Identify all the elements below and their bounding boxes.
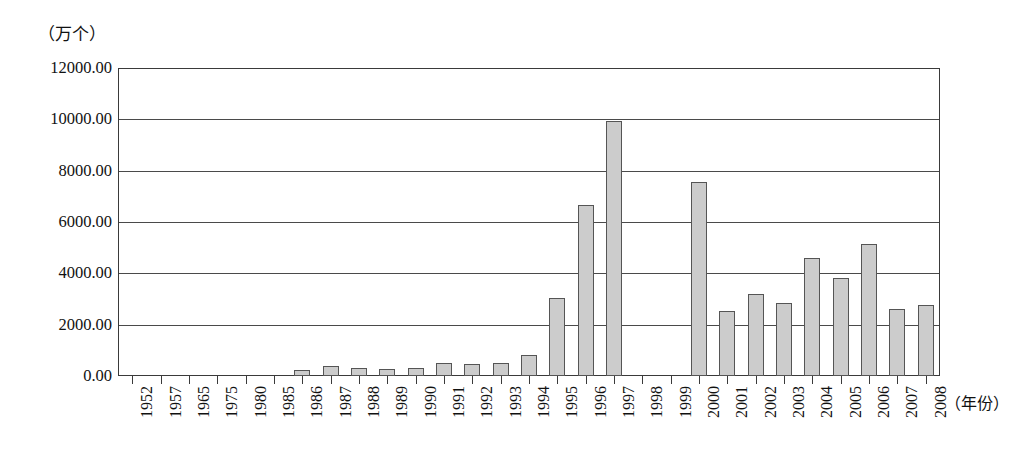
x-axis-tick-label-text: 1991 xyxy=(450,386,468,418)
x-axis-tick-mark xyxy=(331,376,332,384)
bar xyxy=(861,244,877,376)
bar-slot xyxy=(861,68,877,376)
x-axis-tick-mark xyxy=(359,376,360,384)
x-axis-tick-label-text: 1988 xyxy=(365,386,383,418)
x-axis-tick-label-text: 2005 xyxy=(847,386,865,418)
x-axis-tick-label-text: 2001 xyxy=(733,386,751,418)
x-axis-tick-mark xyxy=(161,376,162,384)
x-axis-tick-mark xyxy=(586,376,587,384)
x-axis-tick-label: 1985 xyxy=(274,386,292,418)
bar-slot xyxy=(719,68,735,376)
x-axis-tick-label-text: 1999 xyxy=(677,386,695,418)
bar xyxy=(833,278,849,376)
x-axis-tick-labels: 1952195719651975198019851986198719881989… xyxy=(118,386,940,453)
y-axis-tick-label: 0.00 xyxy=(4,366,112,386)
bar-slot xyxy=(804,68,820,376)
x-axis-tick-label-text: 1997 xyxy=(620,386,638,418)
bar-slot xyxy=(578,68,594,376)
x-axis-tick-label: 1965 xyxy=(189,386,207,418)
x-axis-tick-mark xyxy=(756,376,757,384)
x-axis-tick-label-text: 1975 xyxy=(223,386,241,418)
x-axis-tick-mark xyxy=(132,376,133,384)
x-axis-tick-mark xyxy=(671,376,672,384)
y-axis-tick-label: 6000.00 xyxy=(4,212,112,232)
x-axis-tick-mark xyxy=(529,376,530,384)
x-axis-tick-mark xyxy=(727,376,728,384)
x-axis-tick-mark xyxy=(246,376,247,384)
bar xyxy=(719,311,735,376)
bar-slot xyxy=(833,68,849,376)
bar-chart: （万个） 0.002000.004000.006000.008000.00100… xyxy=(0,0,1035,453)
x-axis-tick-label: 1998 xyxy=(642,386,660,418)
x-axis-tick-label: 1999 xyxy=(671,386,689,418)
bar xyxy=(379,369,395,376)
x-axis-tick-label: 2006 xyxy=(869,386,887,418)
x-axis-tick-label: 1993 xyxy=(501,386,519,418)
bar xyxy=(549,298,565,376)
x-axis-tick-label-text: 1952 xyxy=(138,386,156,418)
x-axis-tick-label-text: 2003 xyxy=(790,386,808,418)
bars-layer xyxy=(118,68,940,376)
x-axis-tick-label: 1991 xyxy=(444,386,462,418)
bar xyxy=(691,182,707,376)
x-axis-tick-label-text: 1995 xyxy=(563,386,581,418)
bar-slot xyxy=(549,68,565,376)
x-axis-tick-label: 1990 xyxy=(416,386,434,418)
bar xyxy=(464,364,480,376)
x-axis-tick-mark xyxy=(926,376,927,384)
x-axis-tick-label: 1987 xyxy=(331,386,349,418)
bar-slot xyxy=(436,68,452,376)
x-axis-tick-label: 1975 xyxy=(217,386,235,418)
x-axis-tick-label-text: 1994 xyxy=(535,386,553,418)
x-axis-tick-label: 1996 xyxy=(586,386,604,418)
x-axis-tick-label: 2000 xyxy=(699,386,717,418)
x-axis-tick-label: 1952 xyxy=(132,386,150,418)
x-axis-ticks xyxy=(118,376,940,386)
x-axis-tick-label: 1980 xyxy=(246,386,264,418)
x-axis-tick-label: 1988 xyxy=(359,386,377,418)
x-axis-tick-mark xyxy=(416,376,417,384)
bar-slot xyxy=(408,68,424,376)
x-axis-tick-label: 1995 xyxy=(557,386,575,418)
bar-slot xyxy=(521,68,537,376)
bar-slot xyxy=(776,68,792,376)
x-axis-tick-mark xyxy=(472,376,473,384)
bar xyxy=(521,355,537,376)
y-axis-tick-label: 12000.00 xyxy=(4,58,112,78)
x-axis-tick-mark xyxy=(274,376,275,384)
x-axis-tick-mark xyxy=(444,376,445,384)
bar xyxy=(493,363,509,376)
x-axis-tick-label: 1992 xyxy=(472,386,490,418)
x-axis-tick-label-text: 2004 xyxy=(818,386,836,418)
bar xyxy=(436,363,452,376)
x-axis-tick-label: 2001 xyxy=(727,386,745,418)
x-axis-unit-label: （年份） xyxy=(945,390,1009,414)
bar xyxy=(748,294,764,376)
x-axis-tick-label: 1957 xyxy=(161,386,179,418)
bar-slot xyxy=(606,68,622,376)
x-axis-tick-label: 1997 xyxy=(614,386,632,418)
bar-slot xyxy=(889,68,905,376)
x-axis-tick-label-text: 1996 xyxy=(592,386,610,418)
x-axis-tick-mark xyxy=(302,376,303,384)
x-axis-tick-label: 2004 xyxy=(812,386,830,418)
x-axis-tick-label: 2003 xyxy=(784,386,802,418)
x-axis-tick-label-text: 1985 xyxy=(280,386,298,418)
bar-slot xyxy=(748,68,764,376)
x-axis-tick-label: 2005 xyxy=(841,386,859,418)
bar-slot xyxy=(294,68,310,376)
bar-slot xyxy=(918,68,934,376)
x-axis-tick-mark xyxy=(557,376,558,384)
y-axis-tick-label: 4000.00 xyxy=(4,263,112,283)
x-axis-tick-mark xyxy=(812,376,813,384)
x-axis-tick-label-text: 2002 xyxy=(762,386,780,418)
x-axis-tick-label: 1989 xyxy=(387,386,405,418)
bar-slot xyxy=(691,68,707,376)
x-axis-tick-mark xyxy=(784,376,785,384)
x-axis-tick-label-text: 1993 xyxy=(507,386,525,418)
y-axis-tick-label: 8000.00 xyxy=(4,161,112,181)
x-axis-tick-label-text: 1990 xyxy=(422,386,440,418)
x-axis-tick-mark xyxy=(699,376,700,384)
x-axis-tick-mark xyxy=(897,376,898,384)
x-axis-tick-label-text: 1965 xyxy=(195,386,213,418)
